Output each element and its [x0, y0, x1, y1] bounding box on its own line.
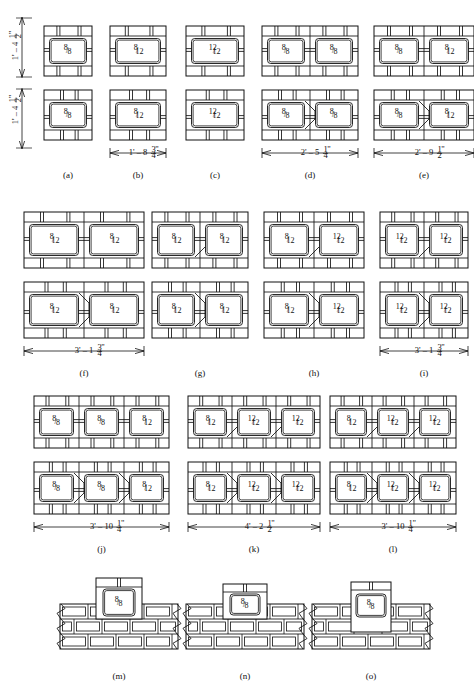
svg-text:12: 12 [336, 306, 344, 315]
svg-text:2' – 9: 2' – 9 [415, 147, 434, 157]
svg-text:4' – 2: 4' – 2 [245, 521, 264, 531]
figure-m-wall-unit [147, 637, 170, 646]
figure-e-caption: (e) [419, 170, 429, 180]
svg-text:12: 12 [251, 484, 259, 493]
svg-text:12: 12 [51, 306, 59, 315]
figure-n-wall-unit [189, 607, 212, 616]
svg-text:": " [441, 342, 444, 352]
svg-text:12: 12 [251, 418, 259, 427]
svg-text:12: 12 [212, 111, 220, 120]
figure-m-wall-unit [63, 607, 86, 616]
svg-text:8: 8 [398, 111, 402, 120]
figure-n-wall-unit [273, 637, 296, 646]
figure-g-caption: (g) [195, 368, 206, 378]
svg-text:8: 8 [285, 47, 289, 56]
figure-j-caption: (j) [97, 544, 106, 554]
figure-d-caption: (d) [305, 170, 316, 180]
svg-text:12: 12 [212, 47, 220, 56]
figure-o-wall-unit [343, 637, 366, 646]
figure-f-caption: (f) [80, 368, 89, 378]
figure-o-wall-unit [329, 622, 352, 631]
svg-text:12: 12 [390, 418, 398, 427]
svg-text:3' – 10: 3' – 10 [382, 521, 405, 531]
svg-text:12: 12 [432, 418, 440, 427]
svg-text:3' – 10: 3' – 10 [90, 521, 113, 531]
svg-text:12: 12 [111, 236, 119, 245]
svg-text:12: 12 [399, 306, 407, 315]
svg-text:12: 12 [446, 47, 454, 56]
svg-text:12: 12 [286, 236, 294, 245]
svg-text:1' – 4: 1' – 4 [10, 41, 20, 60]
figure-c-caption: (c) [210, 170, 220, 180]
svg-text:3' – 1: 3' – 1 [415, 345, 434, 355]
figure-l-caption: (l) [389, 544, 398, 554]
figure-m-caption: (m) [113, 671, 126, 681]
svg-text:8: 8 [244, 601, 248, 610]
figure-m-wall-unit [77, 622, 100, 631]
figure-o-caption: (o) [366, 671, 377, 681]
figure-m-wall-unit [133, 622, 156, 631]
svg-text:8: 8 [370, 602, 374, 611]
figure-o-wall-unit [399, 607, 422, 616]
figure-m-wall-unit [105, 622, 128, 631]
figure-k-caption: (k) [249, 544, 260, 554]
svg-text:": " [441, 144, 444, 154]
svg-text:": " [101, 342, 104, 352]
svg-text:2' – 5: 2' – 5 [301, 147, 320, 157]
figure-n-wall-unit [245, 637, 268, 646]
svg-text:12: 12 [432, 484, 440, 493]
figure-o-wall-unit [315, 607, 338, 616]
svg-text:12: 12 [207, 418, 215, 427]
svg-text:12: 12 [286, 306, 294, 315]
figure-a-caption: (a) [63, 170, 73, 180]
svg-text:3' – 1: 3' – 1 [75, 345, 94, 355]
svg-text:12: 12 [173, 236, 181, 245]
svg-text:12: 12 [221, 306, 229, 315]
svg-text:12: 12 [399, 236, 407, 245]
svg-text:8: 8 [285, 111, 289, 120]
figure-b-caption: (b) [133, 170, 144, 180]
figure-n-wall-unit [189, 637, 212, 646]
svg-text:12: 12 [144, 484, 152, 493]
figure-n-wall-unit [231, 622, 254, 631]
figure-o-wall-unit [371, 637, 394, 646]
drawing-sheet: 8/88/8(a)8/128/121' – 834"(b)12/1212/12(… [0, 0, 474, 686]
figure-m-wall-unit [63, 637, 86, 646]
figure-m-wall-unit [63, 622, 72, 631]
svg-text:12: 12 [295, 484, 303, 493]
svg-text:8: 8 [118, 599, 122, 608]
figure-n-wall-unit [203, 622, 226, 631]
svg-text:12: 12 [173, 306, 181, 315]
svg-text:12: 12 [144, 418, 152, 427]
svg-text:12: 12 [348, 484, 356, 493]
svg-text:8: 8 [398, 47, 402, 56]
svg-text:12: 12 [51, 236, 59, 245]
svg-text:8: 8 [333, 111, 337, 120]
figure-n-wall-unit [287, 622, 302, 631]
svg-text:12: 12 [295, 418, 303, 427]
svg-text:8: 8 [101, 484, 105, 493]
figure-m-wall-unit [91, 637, 114, 646]
figure-o-wall-unit [315, 637, 338, 646]
figure-n-wall-unit [217, 637, 240, 646]
svg-text:": " [155, 144, 158, 154]
svg-text:8: 8 [101, 418, 105, 427]
figure-o-wall-unit [315, 622, 324, 631]
svg-text:8: 8 [56, 418, 60, 427]
svg-text:": " [7, 95, 17, 98]
figure-m-wall-unit [119, 637, 142, 646]
svg-text:": " [327, 144, 330, 154]
svg-text:12: 12 [390, 484, 398, 493]
svg-text:12: 12 [446, 111, 454, 120]
figure-n-caption: (n) [240, 671, 251, 681]
figure-o-wall-unit [413, 622, 428, 631]
svg-text:": " [271, 518, 274, 528]
figure-i-caption: (i) [420, 368, 429, 378]
svg-text:1' – 8: 1' – 8 [129, 147, 148, 157]
svg-text:12: 12 [135, 111, 143, 120]
svg-text:12: 12 [336, 236, 344, 245]
svg-text:": " [7, 31, 17, 34]
svg-text:12: 12 [443, 236, 451, 245]
svg-text:8: 8 [67, 47, 71, 56]
svg-text:12: 12 [443, 306, 451, 315]
